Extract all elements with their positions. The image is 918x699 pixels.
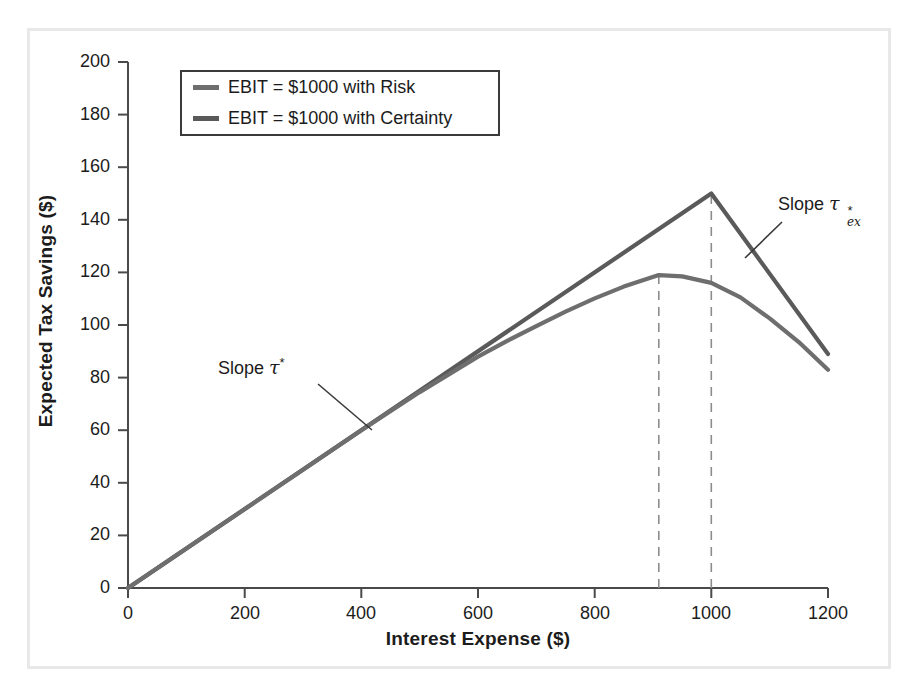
y-tick-label: 200 [58,51,110,72]
legend-item-risk: EBIT = $1000 with Risk [182,72,498,103]
asterisk-icon: * [280,355,285,370]
x-tick-label: 800 [560,603,630,624]
leader-line-slope-tau-ex [745,222,782,258]
y-tick-label: 20 [58,524,110,545]
annotation-slope-tau: Slope τ* [218,355,285,379]
legend-label-risk: EBIT = $1000 with Risk [228,77,415,98]
legend-swatch-certainty [193,116,219,121]
y-tick-label: 160 [58,156,110,177]
subscript-ex: ex [847,215,861,229]
series-line-risk [128,275,828,588]
x-tick-label: 1000 [676,603,746,624]
y-tick-label: 140 [58,209,110,230]
y-tick-marks [118,62,128,588]
x-tick-marks [128,588,828,598]
x-tick-label: 1200 [793,603,863,624]
tau-symbol: τ [829,192,840,214]
y-axis-title: Expected Tax Savings ($) [35,171,57,451]
legend: EBIT = $1000 with Risk EBIT = $1000 with… [180,70,500,136]
x-axis-title: Interest Expense ($) [328,628,628,650]
chart-figure: 0 20 40 60 80 100 120 140 160 180 200 0 … [0,0,918,699]
y-tick-label: 0 [58,577,110,598]
y-tick-label: 100 [58,314,110,335]
series-line-certainty [128,194,828,589]
y-tick-label: 80 [58,367,110,388]
annotation-slope-tau-ex-prefix: Slope [778,194,829,214]
x-tick-label: 400 [326,603,396,624]
y-tick-label: 60 [58,419,110,440]
annotation-slope-tau-prefix: Slope [218,358,269,378]
x-tick-label: 200 [210,603,280,624]
leader-line-slope-tau [318,384,372,430]
legend-label-certainty: EBIT = $1000 with Certainty [228,108,452,129]
tau-symbol: τ [269,356,280,378]
x-tick-label: 0 [93,603,163,624]
annotation-slope-tau-ex: Slope τ*ex [778,192,864,215]
y-tick-label: 120 [58,261,110,282]
y-tick-label: 40 [58,472,110,493]
legend-swatch-risk [193,85,219,90]
x-tick-label: 600 [443,603,513,624]
legend-item-certainty: EBIT = $1000 with Certainty [182,103,498,134]
y-tick-label: 180 [58,104,110,125]
